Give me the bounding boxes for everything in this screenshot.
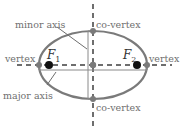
minor-axis-label: minor axis xyxy=(15,19,66,30)
major-axis-label: major axis xyxy=(3,90,53,101)
co-vertex-bottom-label: co-vertex xyxy=(96,102,141,113)
vertex-left-point xyxy=(36,62,42,68)
focus-1-label: F1 xyxy=(46,48,60,64)
vertex-right-label: vertex xyxy=(148,53,180,64)
focus-2-label: F2 xyxy=(122,48,136,64)
major-axis-leader xyxy=(47,72,56,85)
co-vertex-top-label: co-vertex xyxy=(96,19,141,30)
ellipse-diagram: minor axis major axis vertex vertex co-v… xyxy=(0,0,183,131)
center-point xyxy=(90,62,96,68)
vertex-left-label: vertex xyxy=(4,53,36,64)
focus-1-point xyxy=(45,61,53,69)
